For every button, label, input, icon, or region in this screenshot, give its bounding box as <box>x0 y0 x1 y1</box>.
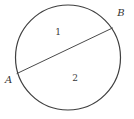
chord-ab <box>17 28 113 74</box>
point-a-label: A <box>4 74 12 85</box>
region-1-label: 1 <box>55 27 61 37</box>
region-2-label: 2 <box>72 73 78 83</box>
diagram-canvas: A B 1 2 <box>0 0 134 119</box>
circle <box>16 5 121 110</box>
circle-chord-diagram: A B 1 2 <box>0 0 134 119</box>
point-b-label: B <box>116 7 124 18</box>
